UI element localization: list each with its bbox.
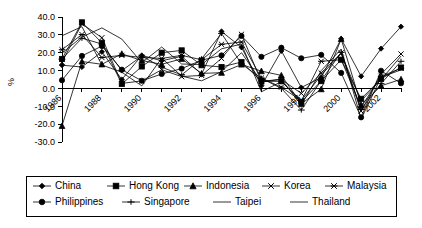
x-tick-label: 1988 [82, 93, 103, 114]
y-tick-label: -20.0 [34, 119, 55, 129]
legend-label: Indonesia [206, 180, 250, 191]
legend-item-malaysia[interactable]: Malaysia [325, 180, 387, 191]
x-tick-label: 1992 [162, 93, 183, 114]
y-tick-label: 30.0 [37, 30, 55, 40]
legend-label: Hong Kong [129, 180, 179, 191]
legend-label: Taipei [235, 196, 261, 207]
legend-label: Korea [284, 180, 311, 191]
legend-item-hong-kong[interactable]: Hong Kong [107, 180, 179, 191]
x-tick-label: 1990 [122, 93, 143, 114]
series-taipei [62, 27, 401, 120]
legend-item-thailand[interactable]: Thailand [290, 196, 350, 207]
y-tick-label: -30.0 [34, 137, 55, 147]
legend-item-indonesia[interactable]: Indonesia [184, 180, 250, 191]
x-tick-label: 2000 [321, 93, 342, 114]
y-axis-tick-labels: 40.030.020.010.00.0-10.0-20.0-30.0 [34, 12, 55, 147]
y-tick-label: 20.0 [37, 48, 55, 58]
legend-item-china[interactable]: China [33, 180, 82, 191]
chart-figure: 40.030.020.010.00.0-10.0-20.0-30.0 % 198… [0, 0, 422, 228]
chart-legend: ChinaHong KongIndonesiaKoreaMalaysiaPhil… [26, 176, 396, 216]
series-path [62, 27, 401, 120]
legend-item-singapore[interactable]: Singapore [122, 196, 190, 207]
y-tick-label: 40.0 [37, 12, 55, 22]
series-path [62, 39, 401, 126]
legend-label: Philippines [55, 196, 103, 207]
series-indonesia [59, 36, 404, 129]
x-tick-label: 1994 [202, 93, 223, 114]
y-tick-label: 10.0 [37, 66, 55, 76]
x-tick-label: 1996 [242, 93, 263, 114]
x-axis [62, 88, 401, 92]
series-korea [59, 21, 403, 114]
y-axis-title: % [6, 78, 16, 86]
data-series-group [59, 20, 405, 129]
line-chart: 40.030.020.010.00.0-10.0-20.0-30.0 % 198… [0, 0, 422, 228]
legend-item-taipei[interactable]: Taipei [213, 196, 261, 207]
legend-label: Malaysia [347, 180, 387, 191]
x-axis-tick-labels: 198619881990199219941996199820002002 [42, 93, 382, 114]
y-tick-label: 0.0 [42, 84, 55, 94]
legend-item-korea[interactable]: Korea [262, 180, 311, 191]
legend-item-philippines[interactable]: Philippines [33, 196, 103, 207]
legend-label: Thailand [312, 196, 350, 207]
series-path [62, 33, 401, 110]
legend-label: China [55, 180, 82, 191]
legend-label: Singapore [144, 196, 190, 207]
